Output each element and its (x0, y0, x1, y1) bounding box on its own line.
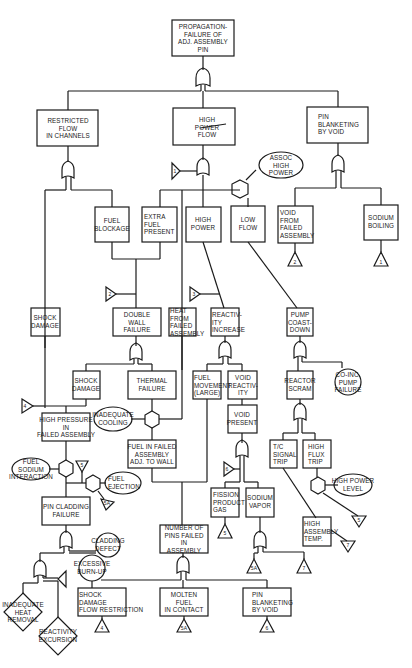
event-extra-fuel: EXTRA FUEL PRESENT (144, 213, 174, 236)
event-assoc-high-power: ASSOC HIGH POWER (269, 154, 293, 177)
fault-tree-diagram (0, 0, 412, 668)
transfer-label: 5A (104, 501, 110, 506)
or-gate-icon (332, 155, 344, 172)
event-heat-from-failed: HEAT FROM FAILED ASSEMBLY (170, 307, 204, 337)
or-gate-icon (254, 531, 266, 548)
transfer-label: 5 (81, 463, 84, 468)
or-gate-icon (294, 341, 306, 358)
event-top: PROPAGATION- FAILURE OF ADJ. ASSEMBLY PI… (178, 23, 228, 53)
event-sodium-boiling: SODIUM BOILING (368, 214, 394, 229)
event-low-flow: LOW FLOW (239, 216, 258, 231)
transfer-label: 1 (174, 169, 177, 174)
event-fuel-sodium: FUEL SODIUM INTERACTION (9, 458, 53, 481)
transfer-label: 5 (358, 518, 361, 523)
event-inadequate-heat-removal: INADEQUATE HEAT REMOVAL (2, 601, 43, 624)
event-void-present: VOID PRESENT (227, 411, 257, 426)
event-high-power: HIGH POWER (191, 216, 215, 231)
transfer-label: 2 (294, 260, 297, 265)
event-reactivity-increase: REACTIV- ITY INCREASE (212, 311, 245, 334)
transfer-label: 3 (193, 292, 196, 297)
event-fuel-movement: FUEL MOVEMENT (LARGE) (194, 374, 231, 397)
event-pump-coastdown: PUMP COAST- DOWN (288, 311, 312, 334)
transfer-label: 5 (224, 531, 227, 536)
event-number-of-pins: NUMBER OF PINS FAILED IN ASSEMBLY (164, 524, 203, 554)
event-excessive-burnup: EXCESSIVE BURN-UP (74, 560, 111, 575)
or-gate-icon (196, 68, 210, 86)
event-high-pressure: HIGH PRESSURE IN FAILED ASSEMBLY (37, 416, 95, 439)
event-fuel-blockage: FUEL BLOCKAGE (94, 217, 129, 232)
transfer-label: 6 (226, 467, 229, 472)
event-reactor-scram: REACTOR SCRAM (284, 377, 315, 392)
event-fuel-in-failed: FUEL IN FAILED ASSEMBLY ADJ. TO WALL (128, 443, 177, 466)
event-coinc-pump: CO-INC. PUMP FAILURE (335, 371, 362, 394)
inhibit-gate-icon (232, 180, 248, 198)
or-gate-icon (60, 531, 72, 548)
event-cladding-defect: CLADDING DEFECT (91, 537, 124, 552)
or-gate-icon (62, 161, 74, 178)
transfer-label: 7 (347, 543, 350, 548)
event-sodium-vapor: SODIUM VAPOR (247, 494, 273, 509)
event-void-reactivity: VOID REACTIV- ITY (228, 374, 258, 397)
or-gate-icon (219, 341, 231, 358)
event-fission-gas: FISSION PRODUCT GAS (213, 491, 245, 514)
event-high-power-level: HIGH POWER LEVEL (332, 477, 374, 492)
transfer-label: 5A (251, 566, 257, 571)
event-pin-cladding: PIN CLADDING FAILURE (43, 503, 89, 518)
transfer-label: 6 (266, 626, 269, 631)
transfer-label: 2 (109, 292, 112, 297)
event-shock-damage-left: SHOCK DAMAGE (31, 314, 59, 329)
event-molten-fuel: MOLTEN FUEL IN CONTACT (164, 591, 203, 614)
event-shock-damage-flow: SHOCK DAMAGE FLOW RESTRICTION (79, 591, 143, 614)
transfer-label: 1 (380, 260, 383, 265)
transfer-label: 4 (24, 404, 27, 409)
event-pin-blanketing-bottom: PIN BLANKETING BY VOID (252, 591, 293, 614)
event-high-assembly-temp: HIGH ASSEMBLY TEMP. (304, 520, 338, 543)
inhibit-gate-icon (59, 460, 73, 477)
transfer-label: 4 (101, 626, 104, 631)
inhibit-gate-icon (86, 475, 100, 492)
event-high-flux: HIGH FLUX TRIP (308, 443, 325, 466)
inhibit-gate-icon (311, 477, 325, 494)
event-inadequate-cooling: INADEQUATE COOLING (92, 411, 133, 426)
or-gate-icon (197, 158, 209, 175)
event-double-wall: DOUBLE WALL FAILURE (124, 311, 151, 334)
event-thermal-failure: THERMAL FAILURE (137, 377, 168, 392)
event-high-power-flow: HIGH POWER FLOW (195, 116, 219, 139)
event-fuel-ejection: FUEL EJECTION (108, 475, 140, 490)
event-restricted-flow: RESTRICTED FLOW IN CHANNELS (46, 117, 89, 140)
or-gate-icon (177, 556, 189, 573)
or-gate-icon (34, 560, 46, 577)
event-reactivity-excursion: REACTIVITY EXCURSION (39, 628, 77, 643)
transfer-label: 5A (181, 626, 187, 631)
transfer-label: 7 (303, 566, 306, 571)
event-pin-blanketing-top: PIN BLANKETING BY VOID (318, 113, 359, 136)
inhibit-gate-icon (145, 411, 159, 428)
event-tc-signal: T/C SIGNAL TRIP (273, 443, 297, 466)
event-void-from-failed: VOID FROM FAILED ASSEMBLY (280, 209, 314, 239)
or-gate-icon (294, 403, 306, 420)
event-shock-damage-mid: SHOCK DAMAGE (72, 377, 100, 392)
